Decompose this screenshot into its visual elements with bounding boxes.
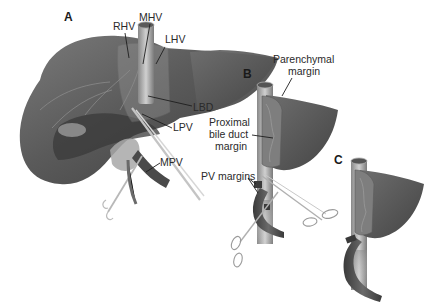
label-bile-line3: margin [215, 140, 247, 152]
panel-label-b: B [243, 67, 252, 81]
panel-a: A RHV MHV LHV LBD LPV MPV [20, 10, 278, 220]
liver-resection-illustration: A RHV MHV LHV LBD LPV MPV [0, 0, 434, 305]
ivc-c-opening [351, 158, 367, 164]
parenchymal-cut-b [262, 96, 282, 167]
label-bile-line1: Proximal [209, 116, 250, 128]
label-pv-margins: PV margins [201, 170, 255, 182]
ivc-b-opening [257, 82, 273, 88]
panel-c: C [334, 153, 424, 302]
label-lpv: LPV [173, 121, 193, 133]
forceps-b1-ring1 [321, 208, 339, 220]
forceps-handle-a [103, 200, 113, 220]
label-mhv: MHV [139, 11, 162, 23]
label-lhv: LHV [165, 33, 185, 45]
forceps-b2-ring1 [229, 235, 242, 251]
label-bile-line2: bile duct [209, 128, 248, 140]
forceps-b2-ring2 [232, 252, 243, 268]
label-parenchymal-line1: Parenchymal [273, 53, 334, 65]
ivc [138, 24, 154, 104]
gallbladder [58, 123, 86, 137]
label-lbd: LBD [193, 101, 214, 113]
forceps-b1-ring2 [302, 217, 317, 227]
label-mpv: MPV [160, 156, 183, 168]
label-rhv: RHV [113, 20, 135, 32]
panel-label-a: A [64, 10, 73, 24]
panel-label-c: C [334, 153, 343, 167]
label-parenchymal-line2: margin [288, 65, 320, 77]
